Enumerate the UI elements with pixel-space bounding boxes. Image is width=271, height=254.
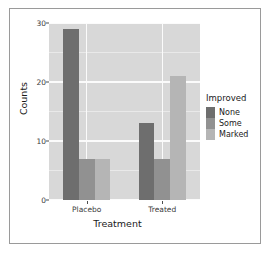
gridline-major [49, 23, 200, 24]
legend: Improved NoneSomeMarked [206, 93, 264, 140]
legend-swatch-icon [206, 107, 215, 118]
legend-label: Some [219, 119, 242, 128]
x-tick-mark [87, 201, 88, 204]
legend-items: NoneSomeMarked [206, 107, 264, 140]
legend-item-none[interactable]: None [206, 107, 264, 118]
bar-treated-some [154, 159, 170, 200]
legend-item-marked[interactable]: Marked [206, 129, 264, 140]
chart-figure: Counts Treatment 0102030 Improved NoneSo… [9, 8, 261, 244]
legend-swatch-icon [206, 129, 215, 140]
legend-label: None [219, 108, 240, 117]
x-tick-mark [162, 201, 163, 204]
bar-placebo-some [79, 159, 95, 200]
bar-treated-marked [170, 76, 186, 200]
legend-item-some[interactable]: Some [206, 118, 264, 129]
y-tick-label: 20 [28, 78, 46, 87]
y-tick-label: 30 [28, 19, 46, 28]
y-tick-label: 10 [28, 137, 46, 146]
legend-label: Marked [219, 130, 248, 139]
bar-placebo-marked [95, 159, 111, 200]
bar-placebo-none [63, 29, 79, 200]
legend-swatch-icon [206, 118, 215, 129]
y-tick-label: 0 [28, 196, 46, 205]
x-axis-title: Treatment [30, 218, 205, 229]
legend-title: Improved [206, 93, 264, 103]
x-tick-label-treated: Treated [132, 205, 192, 214]
y-axis: 0102030 [24, 9, 46, 254]
bar-treated-none [139, 123, 155, 200]
plot-panel [49, 23, 200, 200]
x-tick-label-placebo: Placebo [57, 205, 117, 214]
